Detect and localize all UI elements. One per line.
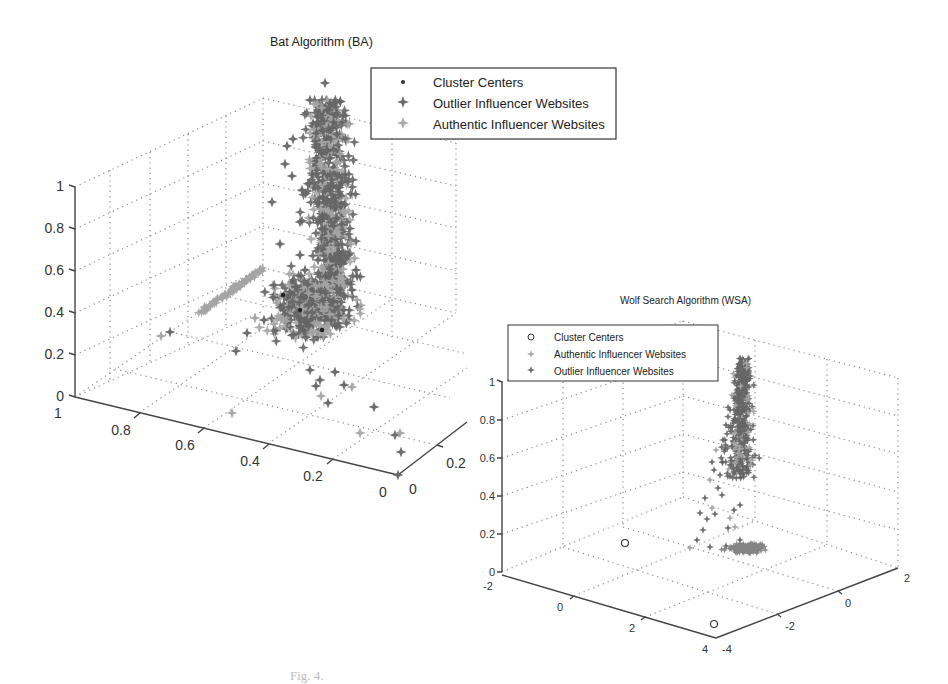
wsa-legend-item-1: Authentic Influencer Websites — [554, 349, 686, 360]
wsa-y-ticks: -4 -2 0 2 — [722, 572, 910, 655]
ba-legend: Cluster Centers Outlier Influencer Websi… — [371, 68, 616, 139]
ba-legend-item-1: Outlier Influencer Websites — [433, 96, 589, 111]
svg-text:0.2: 0.2 — [45, 346, 65, 362]
wsa-x-ticks: -2 0 2 4 — [483, 580, 708, 655]
wsa-axes — [497, 380, 898, 638]
svg-text:0: 0 — [409, 481, 417, 497]
cluster-center-marker-icon — [401, 80, 405, 84]
ba-plot: Bat Algorithm (BA) — [45, 35, 616, 500]
svg-text:0: 0 — [489, 566, 495, 578]
svg-text:0: 0 — [379, 484, 387, 500]
svg-text:0.8: 0.8 — [480, 414, 495, 426]
wsa-z-ticks: 0 0.2 0.4 0.6 0.8 1 — [480, 376, 495, 578]
wsa-plot: Wolf Search Algorithm (WSA) — [480, 295, 910, 655]
ba-legend-item-0: Cluster Centers — [433, 75, 524, 90]
svg-text:-2: -2 — [483, 580, 493, 592]
svg-text:0: 0 — [557, 601, 563, 613]
svg-text:1: 1 — [489, 376, 495, 388]
svg-text:1: 1 — [56, 178, 64, 194]
wsa-x-axis — [502, 575, 716, 638]
wsa-legend-item-2: Outlier Influencer Websites — [554, 366, 674, 377]
svg-text:0.6: 0.6 — [45, 262, 65, 278]
wsa-data-points — [686, 354, 769, 556]
ba-z-ticks: 0 0.2 0.4 0.6 0.8 1 — [45, 178, 65, 404]
wsa-legend: Cluster Centers Authentic Influencer Web… — [508, 325, 718, 381]
svg-text:0.4: 0.4 — [240, 453, 260, 469]
svg-text:-2: -2 — [785, 620, 795, 632]
svg-text:0.2: 0.2 — [446, 455, 466, 471]
ba-y-ticks: 0 0.2 — [409, 455, 466, 497]
svg-text:0: 0 — [845, 597, 851, 609]
svg-text:0.2: 0.2 — [480, 528, 495, 540]
ba-x-ticks: 1 0.8 0.6 0.4 0.2 0 — [54, 405, 387, 500]
figure-caption: Fig. 4. — [290, 668, 324, 684]
svg-text:0.4: 0.4 — [45, 304, 65, 320]
figure-canvas: Bat Algorithm (BA) — [0, 0, 948, 684]
svg-text:1: 1 — [54, 405, 62, 421]
svg-text:2: 2 — [904, 572, 910, 584]
wsa-legend-item-0: Cluster Centers — [554, 332, 623, 343]
svg-text:2: 2 — [629, 622, 635, 634]
ba-title: Bat Algorithm (BA) — [270, 35, 373, 49]
svg-text:0.6: 0.6 — [175, 437, 195, 453]
ba-legend-item-2: Authentic Influencer Websites — [433, 117, 605, 132]
svg-text:0: 0 — [56, 388, 64, 404]
wsa-cluster-center-2 — [711, 621, 718, 628]
wsa-title: Wolf Search Algorithm (WSA) — [620, 295, 751, 306]
ba-grid — [75, 98, 467, 459]
svg-text:0.4: 0.4 — [480, 490, 495, 502]
wsa-cluster-center-1 — [622, 540, 629, 547]
ba-data-points — [156, 78, 407, 481]
wsa-y-axis — [716, 568, 898, 638]
svg-text:0.6: 0.6 — [480, 452, 495, 464]
svg-text:0.8: 0.8 — [45, 220, 65, 236]
svg-text:0.8: 0.8 — [111, 422, 131, 438]
svg-text:4: 4 — [702, 643, 708, 655]
svg-text:0.2: 0.2 — [303, 468, 323, 484]
svg-text:-4: -4 — [722, 643, 732, 655]
